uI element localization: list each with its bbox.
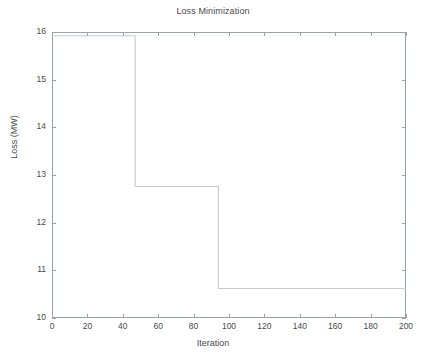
x-tick-mark-top	[87, 32, 88, 36]
x-tick-label: 160	[315, 321, 355, 331]
x-tick-label: 140	[280, 321, 320, 331]
x-tick-mark	[406, 314, 407, 318]
y-tick-mark	[52, 270, 56, 271]
x-tick-mark-top	[229, 32, 230, 36]
x-tick-mark-top	[194, 32, 195, 36]
y-tick-mark-right	[402, 175, 406, 176]
x-tick-mark-top	[158, 32, 159, 36]
y-tick-mark-right	[402, 80, 406, 81]
y-tick-mark-right	[402, 223, 406, 224]
y-tick-mark-right	[402, 270, 406, 271]
x-tick-mark	[371, 314, 372, 318]
x-tick-mark-top	[371, 32, 372, 36]
x-tick-mark-top	[300, 32, 301, 36]
x-tick-label: 40	[103, 321, 143, 331]
y-tick-mark	[52, 175, 56, 176]
x-tick-mark	[229, 314, 230, 318]
y-axis-title: Loss (MW)	[9, 77, 19, 197]
figure-canvas: Loss Minimization 10111213141516 0204060…	[0, 0, 426, 360]
x-tick-mark-top	[123, 32, 124, 36]
x-tick-mark	[264, 314, 265, 318]
x-tick-mark	[87, 314, 88, 318]
y-tick-mark	[52, 127, 56, 128]
x-tick-mark	[194, 314, 195, 318]
x-tick-label: 0	[32, 321, 72, 331]
y-tick-mark-right	[402, 127, 406, 128]
y-tick-mark	[52, 223, 56, 224]
x-tick-mark	[300, 314, 301, 318]
x-tick-label: 200	[386, 321, 426, 331]
x-tick-mark	[158, 314, 159, 318]
x-tick-label: 20	[67, 321, 107, 331]
x-tick-label: 180	[351, 321, 391, 331]
x-tick-mark-top	[406, 32, 407, 36]
y-tick-mark-right	[402, 318, 406, 319]
x-tick-mark-top	[335, 32, 336, 36]
x-tick-mark	[123, 314, 124, 318]
x-axis-title: Iteration	[0, 338, 426, 348]
y-tick-mark	[52, 80, 56, 81]
x-tick-mark-top	[52, 32, 53, 36]
x-tick-labels: 020406080100120140160180200	[0, 0, 426, 360]
x-tick-mark-top	[264, 32, 265, 36]
x-tick-label: 120	[244, 321, 284, 331]
x-tick-label: 100	[209, 321, 249, 331]
x-tick-mark	[52, 314, 53, 318]
y-tick-mark	[52, 318, 56, 319]
x-tick-label: 80	[174, 321, 214, 331]
x-tick-label: 60	[138, 321, 178, 331]
x-tick-mark	[335, 314, 336, 318]
